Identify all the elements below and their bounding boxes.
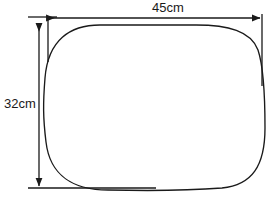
diagram-canvas: 45cm 32cm [0,0,275,207]
width-dimension-label: 45cm [152,0,184,15]
height-dimension: 32cm [4,24,39,186]
rounded-rectangle-shape [44,25,265,190]
height-dimension-label: 32cm [4,96,36,111]
geometry-figure: 45cm 32cm [0,0,275,207]
width-dimension: 45cm [47,0,260,18]
extension-lines [28,14,262,188]
